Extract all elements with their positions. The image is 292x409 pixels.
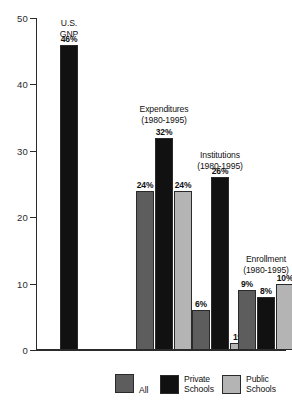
bar-chart: 50403020100 46%24%32%24%6%26%1%9%8%10% U… [0,0,292,409]
group-title: Institutions(1980-1995) [197,150,243,171]
y-tick-label: 10 [17,278,28,289]
y-tick-label: 0 [23,345,28,356]
y-tick-label: 40 [17,79,28,90]
legend-item: Private Schools [160,374,214,394]
group-title: U.S.GNP [60,18,78,39]
group-title: Expenditures(1980-1995) [140,104,189,125]
bar: 9% [238,290,256,350]
bar-value-label: 6% [195,299,207,309]
legend-swatch [115,374,134,393]
bar: 26% [211,177,229,350]
y-axis-line [36,18,37,350]
bar: 24% [136,191,154,350]
bar: 10% [276,284,292,350]
bar: 24% [174,191,192,350]
group-title-line2: (1980-1995) [140,115,189,126]
y-tick-label: 30 [17,145,28,156]
y-tick-mark [30,217,36,218]
bar-value-label: 24% [137,180,154,190]
bar: 6% [192,310,210,350]
plot-area: 50403020100 46%24%32%24%6%26%1%9%8%10% U… [36,18,286,350]
group-title-line2: GNP [60,29,78,40]
legend-label: All [139,385,148,395]
bar-value-label: 8% [260,286,272,296]
bar: 46% [60,45,78,350]
bar: 32% [155,138,173,350]
legend-item: All [115,374,148,393]
y-tick-mark [30,151,36,152]
group-title-line2: (1980-1995) [197,161,243,172]
group-title: Enrollment(1980-1995) [243,254,289,275]
bar-value-label: 24% [175,180,192,190]
bar: 8% [257,297,275,350]
group-title-line1: Expenditures [140,104,189,115]
group-title-line1: U.S. [60,18,78,29]
chart-legend: AllPrivate SchoolsPublic Schools [0,368,292,402]
y-tick-mark [30,350,36,351]
legend-swatch [222,375,241,394]
group-title-line1: Institutions [197,150,243,161]
legend-label: Public Schools [246,374,276,394]
legend-item: Public Schools [222,374,276,394]
y-tick-mark [30,284,36,285]
y-tick-label: 50 [17,13,28,24]
legend-label: Private Schools [184,374,214,394]
group-title-line1: Enrollment [243,254,289,265]
y-tick-mark [30,84,36,85]
group-title-line2: (1980-1995) [243,265,289,276]
bar-value-label: 32% [156,127,173,137]
y-tick-label: 20 [17,212,28,223]
y-tick-mark [30,18,36,19]
legend-swatch [160,375,179,394]
bar-value-label: 9% [241,279,253,289]
